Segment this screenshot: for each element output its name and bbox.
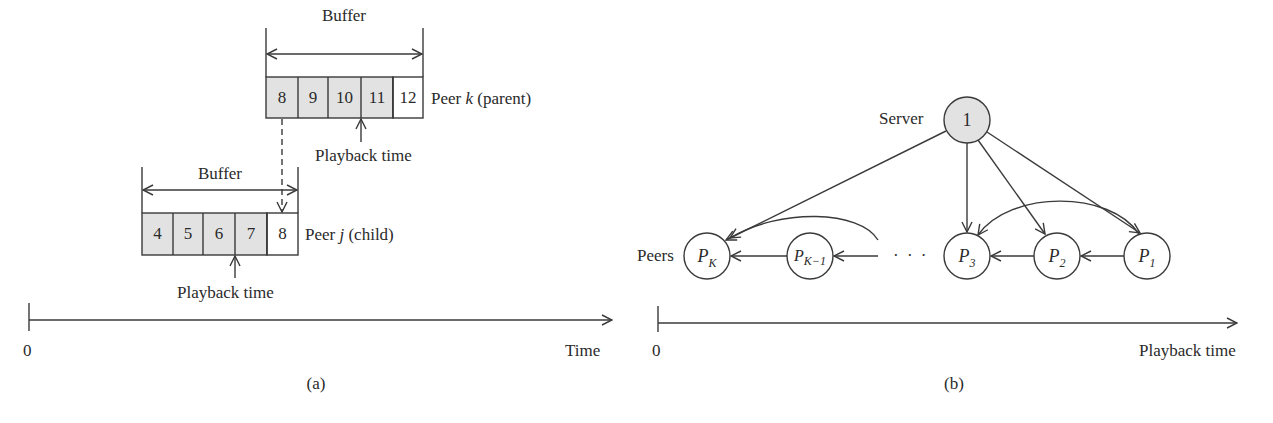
server-node: 1 <box>944 97 990 143</box>
axis-b-label: Playback time <box>1139 342 1236 359</box>
peer-node-pk: PK <box>684 233 730 279</box>
peer-node-p2: P2 <box>1034 233 1080 279</box>
peers-label: Peers <box>637 247 674 264</box>
buffer-cell: 7 <box>235 213 267 254</box>
peer-node-p3: P3 <box>944 233 990 279</box>
panel-a <box>29 28 612 331</box>
axis-b-origin: 0 <box>652 342 661 359</box>
server-label: Server <box>879 110 923 127</box>
child-peer-label: Peer j (child) <box>305 226 394 243</box>
peer-node-pk-1: PK−1 <box>787 233 833 279</box>
buffer-cell: 9 <box>298 77 328 118</box>
buffer-cell: 8 <box>266 77 298 118</box>
buffer-cell: 5 <box>173 213 203 254</box>
ellipsis: · · · <box>893 247 928 264</box>
parent-peer-label: Peer k (parent) <box>431 90 531 107</box>
caption-a: (a) <box>307 375 326 392</box>
caption-b: (b) <box>944 375 964 392</box>
diagram-canvas <box>0 0 1273 423</box>
buffer-cell: 10 <box>328 77 361 118</box>
child-playback-label: Playback time <box>177 284 274 301</box>
buffer-cell: 6 <box>203 213 235 254</box>
parent-buffer-label: Buffer <box>322 7 366 24</box>
buffer-cell: 11 <box>361 77 393 118</box>
peer-node-p1: P1 <box>1124 233 1170 279</box>
buffer-cell: 12 <box>393 77 423 118</box>
buffer-cell: 8 <box>267 213 298 254</box>
axis-a-label: Time <box>565 342 600 359</box>
child-buffer-label: Buffer <box>198 165 242 182</box>
parent-playback-label: Playback time <box>315 147 412 164</box>
axis-a-origin: 0 <box>23 342 32 359</box>
buffer-cell: 4 <box>142 213 173 254</box>
